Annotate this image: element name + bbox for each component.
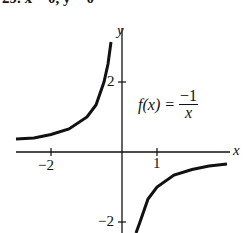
function-label: f(x) = −1 x — [138, 88, 198, 121]
x-axis-label: x — [233, 142, 240, 159]
curve-right-branch — [136, 164, 227, 233]
y-tick-label-2: 2 — [107, 73, 115, 90]
curve-left-branch — [16, 42, 111, 139]
y-tick-label-neg2: −2 — [98, 213, 114, 230]
fraction-denominator: x — [185, 105, 192, 121]
x-tick-label-neg2: −2 — [38, 157, 54, 174]
y-axis-label: y — [117, 22, 124, 39]
function-lhs: f(x) = — [138, 96, 175, 114]
x-tick-label-1: 1 — [153, 155, 161, 172]
function-fraction: −1 x — [179, 88, 198, 121]
fraction-numerator: −1 — [179, 88, 198, 105]
